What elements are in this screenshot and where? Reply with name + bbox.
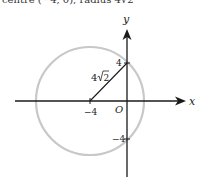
radius-root: 2 xyxy=(104,73,110,83)
center-x-label: −4 xyxy=(84,107,98,117)
radius-label: 4 2 xyxy=(91,71,109,83)
y-axis-label: y xyxy=(122,13,130,26)
radius-coef: 4 xyxy=(91,72,97,83)
y-intercept-bottom-label: −4 xyxy=(112,134,126,144)
circle-diagram: centre (−4, 0), radius 4√2 x y O −4 4 −4… xyxy=(0,0,201,179)
origin-label: O xyxy=(115,104,123,115)
x-axis-label: x xyxy=(189,95,196,108)
y-intercept-top-label: 4 xyxy=(116,58,122,68)
caption-text: centre (−4, 0), radius 4√2 xyxy=(2,0,134,5)
